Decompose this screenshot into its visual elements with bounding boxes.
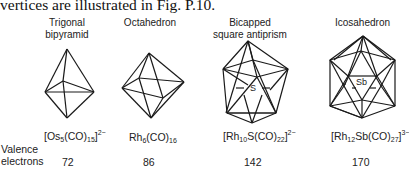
trigonal-bipyramid-diagram <box>45 49 94 118</box>
valence-electrons-label: Valence electrons <box>1 143 44 167</box>
icosahedron-diagram: Sb <box>330 36 395 118</box>
center-atom-sb: Sb <box>356 77 367 87</box>
center-atom-s: S <box>250 83 256 93</box>
electron-count-trigonal-bipyramid: 72 <box>62 156 74 168</box>
electron-count-icosahedron: 170 <box>352 156 370 168</box>
formula-rh6co16: Rh6(CO)16 <box>129 131 177 144</box>
electron-count-octahedron: 86 <box>143 156 155 168</box>
formula-os5co15: [Os5(CO)15]2− <box>44 129 106 143</box>
octahedron-diagram <box>122 53 184 118</box>
bicapped-square-antiprism-diagram: S <box>223 41 288 123</box>
formula-rh10sco22: [Rh10S(CO)22]2− <box>223 129 296 143</box>
electron-count-bicapped-square-antiprism: 142 <box>244 156 262 168</box>
formula-rh12sbco27: [Rh12Sb(CO)27]3− <box>331 129 409 143</box>
